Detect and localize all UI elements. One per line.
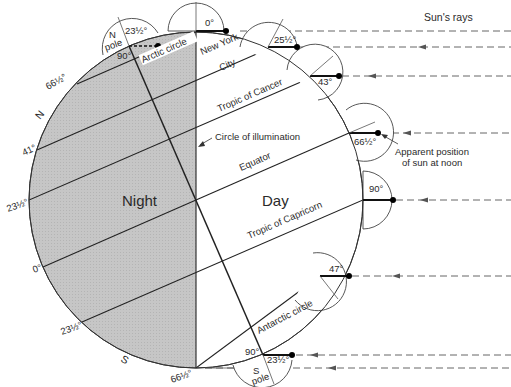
south-hemisphere-label: S [119, 352, 131, 366]
earth-illumination-diagram: Sun's rays Night Day Circle of illuminat… [0, 0, 511, 387]
sun-angle-equator: 66½° [354, 136, 376, 147]
north-hemisphere-label: N [32, 108, 46, 122]
lat-label-cancer: 23½° [5, 196, 30, 214]
lat-label-antarctic: 66½° [169, 367, 194, 385]
sun-angle-capricorn: 90° [369, 183, 384, 194]
annotation-line-2: of sun at noon [402, 157, 462, 168]
tropic-cancer-label: Tropic of Cancer [215, 76, 283, 114]
sun-angle-cancer: 43° [318, 76, 333, 87]
annotation-line-1: Apparent position [395, 146, 469, 157]
south-pole-angle: 23½° [267, 354, 289, 365]
sun-rays [205, 31, 511, 368]
lat-label-arctic: 66½° [44, 71, 69, 92]
circle-of-illumination-label: Circle of illumination [215, 131, 300, 142]
new-york-label-2: City [217, 56, 237, 73]
day-label: Day [262, 192, 289, 209]
new-york-label-1: New York [198, 31, 239, 57]
suns-rays-label: Sun's rays [424, 11, 473, 23]
sun-angle-ny: 25½° [274, 34, 296, 45]
north-pole-right-angle: 90° [117, 50, 132, 61]
sun-angle-arctic: 0° [205, 17, 214, 28]
night-label: Night [122, 192, 158, 209]
sun-angle-antarctic: 47° [329, 263, 344, 274]
south-pole-right-angle: 90° [245, 346, 260, 357]
lat-label-capricorn: 23½° [59, 319, 84, 337]
north-pole-angle: 23½° [125, 25, 147, 36]
